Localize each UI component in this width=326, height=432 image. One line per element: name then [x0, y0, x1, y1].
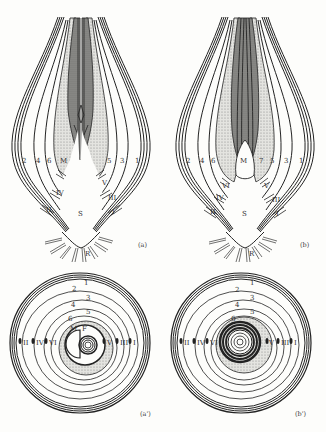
bud-V: V: [268, 339, 275, 347]
ring-label-4: 4: [235, 301, 240, 309]
ring-label-2: 2: [235, 286, 239, 294]
bud-VI: VI: [221, 182, 230, 190]
bud-IV: IV: [36, 339, 45, 347]
bud-III: III: [272, 196, 281, 204]
leaf-label-6: 6: [47, 157, 52, 165]
caption-a-prime: (a'): [140, 410, 151, 418]
figure-a: 2 4 6 M 5 3 1 S R IV II V III I (a): [12, 17, 150, 262]
leaf-label-7: 7: [259, 157, 263, 165]
ring-label-5: 5: [250, 308, 254, 316]
ring-label-6: 6: [231, 315, 236, 323]
caption-b: (b): [300, 241, 310, 249]
leaf-label-2: 2: [22, 157, 26, 165]
bud-V: V: [106, 339, 113, 347]
label-R: R: [249, 250, 255, 258]
leaf-label-3: 3: [284, 157, 288, 165]
bud-III: III: [281, 339, 290, 347]
bud-I: I: [133, 339, 136, 347]
leaf-label-5: 5: [270, 157, 274, 165]
bud-I: I: [276, 210, 279, 218]
label-S: S: [78, 210, 83, 218]
ring-label-3: 3: [250, 294, 254, 302]
ring-label-2: 2: [72, 285, 76, 293]
label-S: S: [242, 210, 247, 218]
bud-III: III: [120, 339, 129, 347]
bud-VI: VI: [48, 339, 57, 347]
label-M: M: [240, 157, 247, 165]
figure-b: 2 4 6 M 7 5 3 1 S R VI IV II V III I (b): [176, 17, 314, 262]
leaf-label-4: 4: [36, 157, 41, 165]
leaf-label-1: 1: [135, 157, 139, 165]
ring-label-1: 1: [84, 279, 88, 287]
bud-II: II: [210, 208, 216, 216]
ring-label-1: 1: [250, 279, 254, 287]
bud-V: V: [263, 182, 270, 190]
bud-V: V: [101, 179, 108, 187]
label-M: M: [60, 157, 67, 165]
label-F: F: [82, 325, 87, 333]
ring-label-4: 4: [71, 301, 76, 309]
bud-III: III: [108, 194, 117, 202]
bud-IV: IV: [56, 189, 65, 197]
ring-label-5: 5: [86, 308, 90, 316]
bud-II: II: [46, 206, 52, 214]
ring-label-3: 3: [86, 294, 90, 302]
bud-IV: IV: [197, 339, 206, 347]
bulb-diagram: 2 4 6 M 5 3 1 S R IV II V III I (a): [0, 0, 326, 432]
bud-II: II: [184, 339, 190, 347]
bud-VI: VI: [209, 339, 218, 347]
leaf-label-5: 5: [107, 157, 111, 165]
label-R: R: [85, 250, 91, 258]
bud-IV: IV: [216, 194, 225, 202]
leaf-label-6: 6: [211, 157, 216, 165]
ring-label-6: 6: [68, 315, 73, 323]
leaf-label-2: 2: [186, 157, 190, 165]
caption-b-prime: (b'): [295, 410, 306, 418]
bud-I: I: [294, 339, 297, 347]
bud-II: II: [23, 339, 29, 347]
figure-a-prime: 1 2 3 4 5 6 M F II IV VI V III I (a'): [10, 273, 151, 418]
bud-I: I: [112, 208, 115, 216]
figure-b-prime: 1 2 3 4 5 6 II IV VI V III I (b'): [171, 273, 311, 418]
leaf-label-3: 3: [120, 157, 124, 165]
leaf-label-4: 4: [200, 157, 205, 165]
caption-a: (a): [138, 241, 147, 249]
leaf-label-1: 1: [299, 157, 303, 165]
label-M: M: [70, 325, 77, 333]
